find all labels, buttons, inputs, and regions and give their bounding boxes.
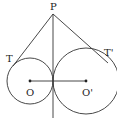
- label-p: P: [50, 1, 57, 12]
- label-o: O: [26, 87, 34, 98]
- tangent-segment-pt-prime: [53, 14, 108, 63]
- label-t: T: [6, 53, 13, 64]
- label-o-prime: O': [82, 87, 93, 98]
- center-point-o-prime: [85, 80, 88, 83]
- center-point-o: [29, 80, 32, 83]
- geometry-diagram: P T T' O O': [0, 0, 117, 126]
- label-t-prime: T': [104, 47, 113, 58]
